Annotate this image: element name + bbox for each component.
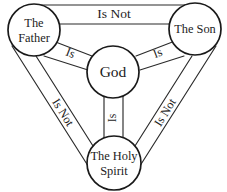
node-the-father[interactable]: The Father xyxy=(8,4,60,56)
trinity-diagram-canvas: The Father The Son The Holy Spirit God I… xyxy=(0,0,227,192)
node-the-holy-spirit[interactable]: The Holy Spirit xyxy=(87,136,141,190)
edge-label-son-god: Is xyxy=(151,45,164,61)
node-god[interactable]: God xyxy=(87,46,139,98)
node-god-label: God xyxy=(100,63,127,80)
node-the-son[interactable]: The Son xyxy=(169,3,221,55)
edge-son-spirit-line-outer xyxy=(131,46,216,180)
edge-label-son-spirit: Is Not xyxy=(151,95,179,128)
node-the-holy-spirit-label-line2: Spirit xyxy=(100,164,128,178)
node-the-son-label: The Son xyxy=(174,22,216,36)
edge-label-father-son: Is Not xyxy=(97,6,131,21)
edge-father-spirit-line-outer xyxy=(12,46,97,180)
node-the-father-label-line2: Father xyxy=(18,31,51,45)
node-the-holy-spirit-label-line1: The Holy xyxy=(90,149,138,163)
trinity-shield-diagram: The Father The Son The Holy Spirit God I… xyxy=(0,0,227,192)
node-the-father-label-line1: The xyxy=(24,16,44,30)
edge-label-spirit-god: Is xyxy=(106,113,119,122)
edge-label-father-spirit: Is Not xyxy=(49,96,77,129)
edge-label-father-god: Is xyxy=(64,45,77,61)
